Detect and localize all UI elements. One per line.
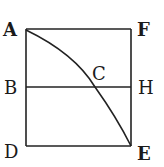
- curve-ace: [26, 30, 131, 146]
- label-b: B: [4, 77, 17, 98]
- label-h: H: [138, 77, 154, 98]
- label-f: F: [137, 19, 150, 40]
- label-a: A: [2, 19, 18, 40]
- label-e: E: [137, 143, 151, 164]
- label-d: D: [4, 141, 18, 162]
- geometry-figure: A F B C H D E: [0, 0, 164, 167]
- label-c: C: [92, 63, 106, 84]
